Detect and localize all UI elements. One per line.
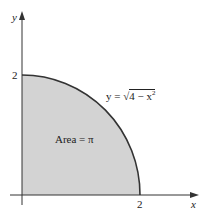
equation-exponent: 2 bbox=[152, 89, 156, 97]
y-axis-arrow-icon bbox=[19, 11, 25, 20]
x-axis-label: x bbox=[191, 199, 196, 210]
diagram: y x 2 2 y = √4 − x2 Area = π bbox=[0, 0, 210, 213]
plot-svg bbox=[0, 0, 210, 213]
curve-equation: y = √4 − x2 bbox=[106, 90, 155, 102]
area-label: Area = π bbox=[55, 134, 94, 145]
equation-radicand: 4 − x2 bbox=[129, 89, 155, 102]
radicand-text: 4 − x bbox=[129, 90, 152, 102]
y-tick-label: 2 bbox=[12, 70, 18, 81]
y-axis-label: y bbox=[12, 12, 17, 23]
x-tick-label: 2 bbox=[137, 199, 143, 210]
equation-prefix: y = bbox=[106, 90, 123, 102]
